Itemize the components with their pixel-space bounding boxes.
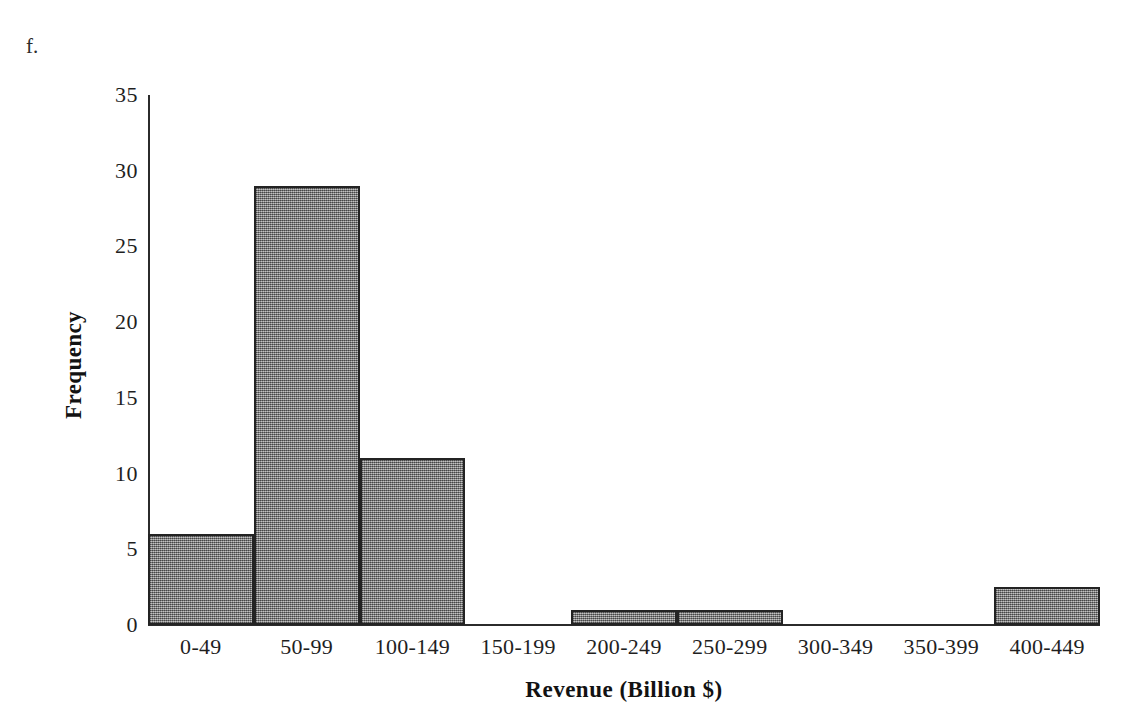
y-axis-tick-label: 10 [76, 463, 138, 485]
x-axis-tick-label: 250-299 [677, 634, 783, 660]
y-axis-tick-label: 5 [76, 538, 138, 560]
histogram-plot: 05101520253035 0-4950-99100-149150-19920… [0, 0, 1139, 719]
x-axis-tick-label: 0-49 [148, 634, 254, 660]
x-axis-tick-label: 50-99 [254, 634, 360, 660]
x-axis-title: Revenue (Billion $) [148, 677, 1100, 703]
bar [148, 534, 254, 625]
y-axis-title: Frequency [61, 275, 87, 455]
x-axis-tick-label: 100-149 [360, 634, 466, 660]
bar [994, 587, 1100, 625]
x-axis-tick-label: 350-399 [888, 634, 994, 660]
y-axis-tick-label: 25 [76, 235, 138, 257]
y-axis-tick-label: 0 [76, 614, 138, 636]
x-axis-tick-label: 400-449 [994, 634, 1100, 660]
x-axis-tick-label: 150-199 [465, 634, 571, 660]
bar [677, 610, 783, 625]
x-axis-tick-labels: 0-4950-99100-149150-199200-249250-299300… [148, 634, 1100, 668]
y-axis-tick-label: 35 [76, 84, 138, 106]
bar [571, 610, 677, 625]
bar [254, 186, 360, 625]
bar-series [148, 95, 1100, 625]
y-axis-tick-label: 30 [76, 160, 138, 182]
bar [360, 458, 466, 625]
x-axis-tick-label: 200-249 [571, 634, 677, 660]
x-axis-tick-label: 300-349 [783, 634, 889, 660]
